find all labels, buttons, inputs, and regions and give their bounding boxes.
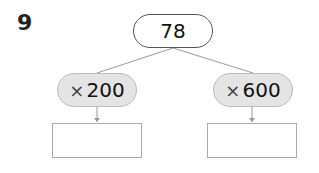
right-operand: 600 (242, 78, 280, 102)
left-answer-box[interactable] (52, 123, 142, 158)
arrow-down-icon (249, 118, 255, 122)
multiply-icon: × (69, 80, 84, 101)
arrow-down-icon (94, 118, 100, 122)
root-value: 78 (133, 14, 213, 48)
multiply-icon: × (225, 80, 240, 101)
root-value-text: 78 (160, 19, 185, 43)
left-operation: × 200 (57, 73, 137, 107)
right-operation: × 600 (213, 73, 293, 107)
left-operand: 200 (86, 78, 124, 102)
right-answer-box[interactable] (207, 123, 297, 158)
